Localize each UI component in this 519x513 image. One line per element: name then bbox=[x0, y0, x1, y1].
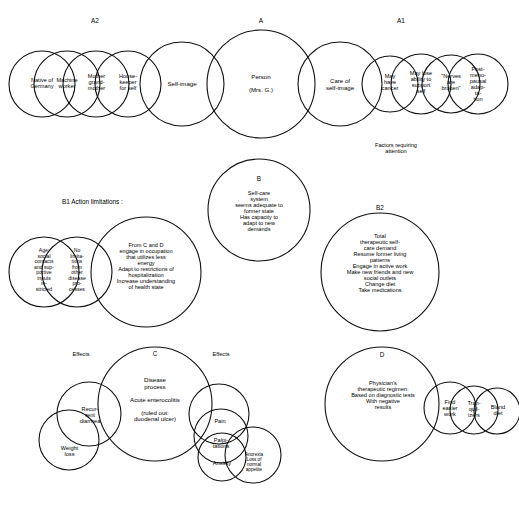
circle-self-image bbox=[140, 42, 224, 126]
circle-person bbox=[207, 30, 315, 138]
circle-native-of-germany bbox=[9, 51, 75, 117]
circle-c-recurrent-diarrhea bbox=[57, 382, 121, 446]
circle-b1-center bbox=[91, 217, 201, 327]
circle-mother-grandmother bbox=[63, 51, 129, 117]
circle-d-bland-diet bbox=[474, 388, 519, 434]
circle-may-have-cancer bbox=[362, 56, 418, 112]
circle-c-pain bbox=[189, 384, 249, 444]
circle-c-weight-loss bbox=[39, 410, 99, 470]
circle-b1-left bbox=[9, 237, 79, 307]
circle-d bbox=[325, 347, 439, 461]
diagram-circles bbox=[0, 0, 519, 513]
circle-post-menopausal bbox=[448, 54, 508, 114]
circle-b1-mid bbox=[42, 237, 112, 307]
diagram-canvas: A A1 A2 B B1 Action limitations : B2 C D… bbox=[0, 0, 519, 513]
circle-machine-worker bbox=[34, 51, 100, 117]
circle-b bbox=[208, 159, 310, 261]
circle-care-of-self-image bbox=[298, 42, 382, 126]
circle-housekeeper bbox=[95, 51, 161, 117]
circle-b2 bbox=[321, 213, 439, 331]
circle-may-lose-ability bbox=[391, 54, 451, 114]
circle-c-anorexia bbox=[225, 427, 281, 483]
